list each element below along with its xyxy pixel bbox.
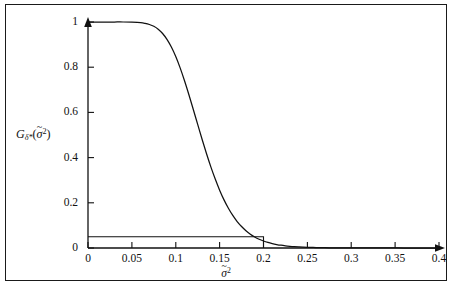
- y-axis-label: Gδ*(~σ2): [16, 128, 51, 142]
- y-axis-label-g: G: [16, 127, 25, 141]
- y-axis-label-close-paren: ): [47, 127, 51, 141]
- y-axis-label-sigma-tilde: ~σ: [37, 128, 43, 140]
- x-tick-label-0.1: 0.1: [169, 253, 183, 265]
- y-axis: [84, 17, 92, 248]
- y-tick-marks: [88, 22, 94, 248]
- figure-container: 0 0.2 0.4 0.6 0.8 1 0 0.05 0.1 0.15 0.2 …: [0, 0, 454, 287]
- y-tick-label-0.6: 0.6: [50, 107, 78, 119]
- x-tick-label-0.2: 0.2: [256, 253, 270, 265]
- x-axis-label-exponent: 2: [227, 266, 231, 275]
- x-axis-label-tilde: ~: [221, 261, 226, 271]
- power-curve: [88, 22, 439, 248]
- x-tick-label-0.05: 0.05: [122, 253, 142, 265]
- x-tick-label-0.4: 0.4: [432, 253, 446, 265]
- y-axis-label-subscript: δ*: [25, 133, 33, 142]
- x-tick-label-0.25: 0.25: [297, 253, 317, 265]
- y-axis-label-tilde: ~: [37, 122, 43, 132]
- y-tick-label-0.8: 0.8: [50, 61, 78, 73]
- x-tick-label-0.3: 0.3: [344, 253, 358, 265]
- x-axis-label-sigma-tilde: ~σ: [221, 268, 227, 280]
- x-tick-label-0.35: 0.35: [385, 253, 405, 265]
- x-axis-label: ~σ2: [221, 267, 231, 279]
- y-tick-label-0.2: 0.2: [50, 197, 78, 209]
- y-tick-label-0.4: 0.4: [50, 152, 78, 164]
- y-tick-label-1: 1: [50, 16, 78, 28]
- x-tick-label-0: 0: [85, 253, 91, 265]
- y-tick-label-0: 0: [50, 242, 78, 254]
